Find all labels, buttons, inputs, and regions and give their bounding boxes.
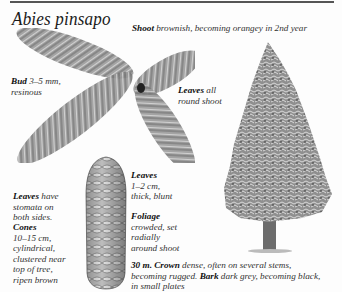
leaves-all-round-annotation: Leaves all round shoot	[178, 85, 222, 106]
cones-annotation: Cones 10–15 cm, cylindrical, clustered n…	[13, 222, 65, 285]
crown-bark-annotation: 30 m. Crown dense, often on several stem…	[131, 260, 320, 292]
leaves-size-annotation: Leaves 1–2 cm, thick, blunt	[131, 170, 172, 202]
foliage-annotation: Foliage crowded, set radially around sho…	[131, 211, 179, 253]
bud-annotation: Bud 3–5 mm, resinous	[11, 76, 61, 97]
shoot-annotation: Shoot brownish, becoming orangey in 2nd …	[132, 23, 307, 34]
cone-illustration	[82, 155, 130, 290]
page-title: Abies pinsapo	[12, 8, 111, 30]
header-rule	[10, 1, 334, 3]
tree-illustration	[222, 40, 337, 255]
leaves-stomata-annotation: Leaves have stomata on both sides.	[13, 191, 59, 223]
